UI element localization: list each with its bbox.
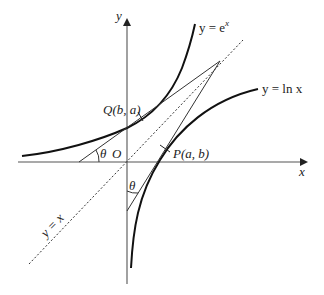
- y-axis-label: y: [114, 8, 122, 23]
- exponential-curve: [22, 24, 195, 156]
- origin-label: O: [112, 146, 122, 161]
- point-p-label: P(a, b): [172, 146, 209, 161]
- angle-theta-p: θ: [129, 178, 136, 193]
- x-axis-label: x: [298, 164, 305, 179]
- angle-arc-q: [96, 150, 99, 162]
- identity-line: [29, 40, 243, 264]
- logarithm-label: y = ln x: [262, 81, 303, 96]
- identity-label: y = x: [36, 210, 67, 241]
- logarithm-curve: [131, 89, 258, 268]
- point-q-label: Q(b, a): [103, 102, 141, 117]
- angle-theta-q: θ: [100, 146, 107, 161]
- diagram-canvas: y x O y = ex y = ln x y = x Q(b, a) P(a,…: [0, 0, 324, 295]
- exponential-label: y = ex: [199, 18, 229, 35]
